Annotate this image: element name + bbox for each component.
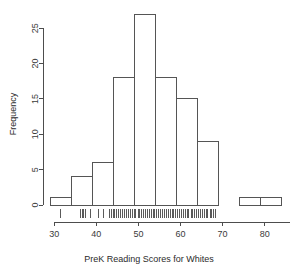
x-axis-tick-label: 60 [176, 229, 186, 239]
histogram-bar [197, 141, 218, 205]
histogram-bar [92, 163, 113, 205]
x-axis-tick-label: 50 [133, 229, 143, 239]
histogram-bar [261, 198, 282, 205]
y-axis: 0510152025 [30, 23, 43, 207]
histogram-bars-group [50, 14, 282, 205]
histogram-bar [71, 177, 92, 205]
rug-plot-group [61, 209, 216, 218]
x-axis-tick-label: 70 [218, 229, 228, 239]
histogram-plot-container: 0510152025 304050607080 PreK Reading Sco… [0, 0, 299, 276]
y-axis-tick-label: 5 [30, 167, 40, 172]
histogram-bar [239, 198, 260, 205]
y-axis-tick-label: 25 [30, 23, 40, 33]
x-axis-title: PreK Reading Scores for Whites [84, 254, 214, 264]
y-axis-tick-label: 10 [30, 129, 40, 139]
y-axis-tick-label: 0 [30, 202, 40, 207]
y-axis-title: Frequency [8, 92, 18, 135]
x-axis: 304050607080 [49, 222, 290, 239]
x-axis-tick-label: 30 [49, 229, 59, 239]
histogram-bar [155, 78, 176, 205]
y-axis-tick-label: 20 [30, 59, 40, 69]
x-axis-tick-label: 40 [91, 229, 101, 239]
y-axis-tick-label: 15 [30, 94, 40, 104]
histogram-bar [50, 198, 71, 205]
x-axis-tick-label: 80 [260, 229, 270, 239]
histogram-bar [113, 78, 134, 205]
histogram-bar [134, 14, 155, 205]
histogram-chart: 0510152025 304050607080 PreK Reading Sco… [0, 0, 299, 276]
histogram-bar [176, 99, 197, 205]
